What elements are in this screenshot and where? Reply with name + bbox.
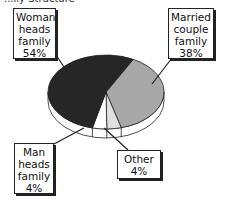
leader-man bbox=[54, 128, 84, 144]
slice-label-line: Man bbox=[17, 146, 51, 158]
slice-label-line: couple bbox=[171, 23, 211, 35]
slice-label-line: family bbox=[16, 35, 53, 47]
slice-label-line: family bbox=[171, 35, 211, 47]
slice-label-value: 4% bbox=[120, 165, 158, 177]
slice-label-line: heads bbox=[17, 158, 51, 170]
slice-label-line: Other bbox=[120, 153, 158, 165]
callout-other: Other 4% bbox=[117, 150, 161, 179]
slice-label-value: 38% bbox=[171, 47, 211, 59]
slice-label-line: Married bbox=[171, 11, 211, 23]
slice-label-line: Woman bbox=[16, 11, 53, 23]
leader-married bbox=[152, 58, 172, 84]
callout-woman-heads-family: Woman heads family 54% bbox=[13, 8, 56, 59]
slice-label-line: heads bbox=[16, 23, 53, 35]
slice-label-value: 4% bbox=[17, 182, 51, 194]
callout-married-couple-family: Married couple family 38% bbox=[168, 8, 214, 59]
callout-man-heads-family: Man heads family 4% bbox=[14, 143, 54, 194]
pie-slices bbox=[48, 55, 164, 129]
slice-label-line: family bbox=[17, 170, 51, 182]
slice-label-value: 54% bbox=[16, 47, 53, 59]
